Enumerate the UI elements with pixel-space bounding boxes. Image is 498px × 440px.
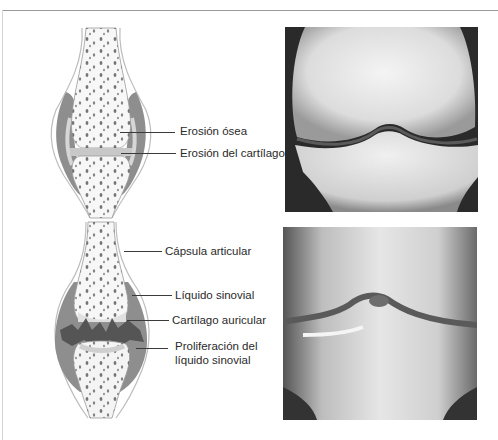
leader-line-joint-capsule xyxy=(124,251,162,252)
label-cartilage-erosion: Erosión del cartílago xyxy=(180,146,285,160)
knee-xray-top xyxy=(285,27,478,212)
label-cartilage: Cartílago auricular xyxy=(172,313,266,327)
label-synovial-fluid: Líquido sinovial xyxy=(175,288,254,302)
leader-line-synovial-proliferation xyxy=(136,348,168,349)
label-joint-capsule: Cápsula articular xyxy=(165,244,251,258)
label-synovial-proliferation-1: Proliferación del xyxy=(175,339,257,353)
knee-xray-bottom xyxy=(283,227,477,420)
label-synovial-proliferation-2: líquido sinovial xyxy=(175,353,250,367)
label-bone-erosion: Erosión ósea xyxy=(180,124,247,138)
leader-line-synovial-fluid xyxy=(132,295,172,296)
joint-diagram-top xyxy=(0,0,250,220)
leader-line-cartilage xyxy=(127,320,169,321)
leader-line-bone-erosion xyxy=(120,132,175,133)
leader-line-cartilage-erosion xyxy=(121,153,176,154)
